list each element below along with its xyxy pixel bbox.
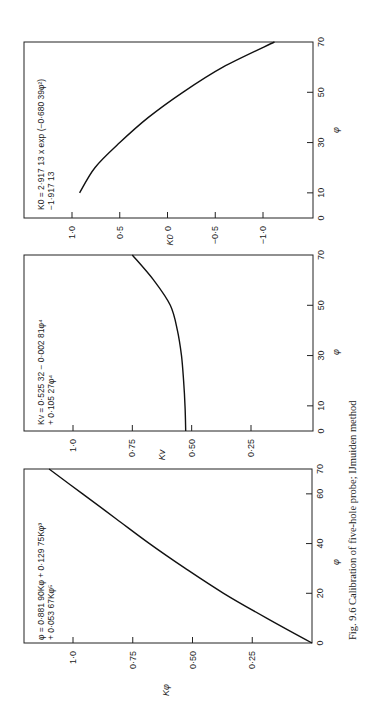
kv-x-label: φ [331,349,341,355]
kv-curve [132,255,185,431]
kphi-curve [49,469,312,643]
k0-equation-line2: −1·917 13 [46,171,56,210]
tick-label: 1·0 [67,226,77,239]
kv-equation-line2: + 0·105 27φ⁴ [46,375,56,425]
tick-label: 40 [315,539,325,549]
k0-equation: K0 = 2·917 13 x exp (−0·680 39φ²) −1·917… [36,76,56,210]
k0-y-label: K0 [165,234,175,245]
tick-label: −1·0 [258,226,268,244]
tick-label: 0·50 [187,439,197,457]
tick-label: 1·0 [68,651,78,664]
kphi-equation-line2: + 0·053 67Kφ⁵ [46,584,56,640]
tick-label: 50 [316,300,326,310]
kphi-x-label: φ [331,559,341,565]
tick-label: 0·25 [246,439,256,457]
kv-equation-line1: Kv = 0·525 32 − 0·002 81φ⁴ [36,319,46,425]
tick-label: 70 [316,250,326,260]
k0-curve [80,42,275,193]
tick-label: 0 [316,428,326,433]
phi-axis-ticks: 020406070 [306,464,325,646]
phi-axis-ticks: 010305070 [307,250,326,434]
tick-label: −0·5 [210,226,220,244]
figure-caption: Fig. 9.6 Calibration of five-hole probe;… [347,400,358,640]
tick-label: 10 [316,401,326,411]
panel-kphi: 0·250·500·751·0 020406070 φ = 0·881 90Kφ… [24,464,341,696]
plot-frame [24,255,313,431]
kv-y-label: Kv [157,449,167,460]
tick-label: 0·25 [247,651,257,669]
figure-canvas: 1·00·50−0·5−1·0 010305070 K0 = 2·917 13 … [0,0,369,714]
tick-label: 0 [315,640,325,645]
tick-label: 0 [316,215,326,220]
plot-frame [24,42,313,218]
kphi-y-label: Kφ [161,684,171,696]
k0-equation-line1: K0 = 2·917 13 x exp (−0·680 39φ²) [36,79,46,210]
tick-label: 20 [315,588,325,598]
panel-kv: 0·250·500·751·0 010305070 Kv = 0·525 32 … [24,250,341,460]
tick-label: 0·5 [115,226,125,239]
tick-label: 0·75 [127,439,137,457]
k0-x-label: φ [331,127,341,133]
tick-label: 70 [316,37,326,47]
tick-label: 60 [315,489,325,499]
tick-label: 0·50 [188,651,198,669]
tick-label: 0 [163,226,173,231]
kphi-equation-line1: φ = 0·881 90Kφ + 0·129 75Kφ³ [36,523,46,640]
tick-label: 0·75 [128,651,138,669]
phi-axis-ticks: 010305070 [307,37,326,221]
tick-label: 30 [316,351,326,361]
tick-label: 70 [315,464,325,474]
tick-label: 1·0 [68,439,78,452]
kphi-equation: φ = 0·881 90Kφ + 0·129 75Kφ³ + 0·053 67K… [36,520,56,640]
kphi-axis-ticks: 0·250·500·751·0 [68,637,257,669]
kv-equation: Kv = 0·525 32 − 0·002 81φ⁴ + 0·105 27φ⁴ [36,317,56,425]
panel-k0: 1·00·50−0·5−1·0 010305070 K0 = 2·917 13 … [24,37,341,246]
tick-label: 30 [316,138,326,148]
tick-label: 10 [316,188,326,198]
tick-label: 50 [316,87,326,97]
